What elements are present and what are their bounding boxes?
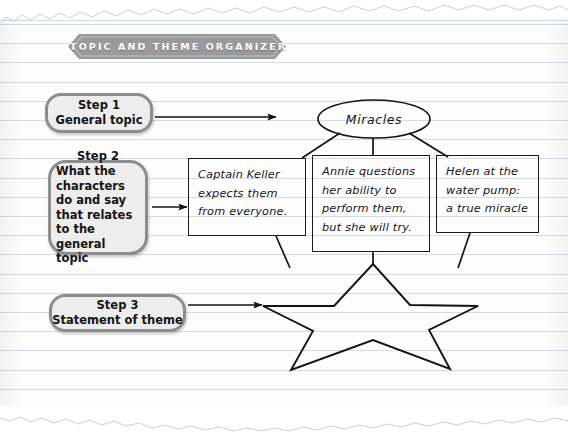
detail-box-2-text: Annie questions her ability to perform t… (322, 163, 421, 237)
detail-box-1[interactable]: Captain Keller expects them from everyon… (188, 158, 306, 236)
step-2-heading: Step 2 (77, 149, 119, 164)
step-2-pill[interactable]: Step 2 What the characters do and say th… (48, 160, 148, 255)
step-2-body: What the characters do and say that rela… (56, 164, 140, 266)
theme-star[interactable] (268, 288, 478, 348)
detail-box-1-text: Captain Keller expects them from everyon… (198, 166, 297, 222)
detail-box-3-text: Helen at the water pump: a true miracle (446, 163, 530, 219)
step-1-pill[interactable]: Step 1 General topic (45, 93, 153, 133)
title-banner-text: TOPIC AND THEME ORGANIZER (68, 34, 286, 59)
title-banner: TOPIC AND THEME ORGANIZER (68, 34, 286, 59)
step-1-heading: Step 1 (78, 98, 120, 113)
detail-box-2[interactable]: Annie questions her ability to perform t… (312, 155, 430, 252)
detail-box-3[interactable]: Helen at the water pump: a true miracle (436, 155, 539, 233)
worksheet-page: TOPIC AND THEME ORGANIZER Step 1 General… (0, 0, 568, 434)
step-3-pill[interactable]: Step 3 Statement of theme (49, 294, 186, 332)
torn-edge-bottom (0, 404, 568, 434)
step-3-heading: Step 3 (97, 298, 139, 313)
topic-oval-label: Miracles (346, 112, 402, 127)
step-1-body: General topic (56, 113, 143, 128)
step-3-body: Statement of theme (52, 313, 182, 328)
topic-oval[interactable]: Miracles (318, 100, 430, 138)
